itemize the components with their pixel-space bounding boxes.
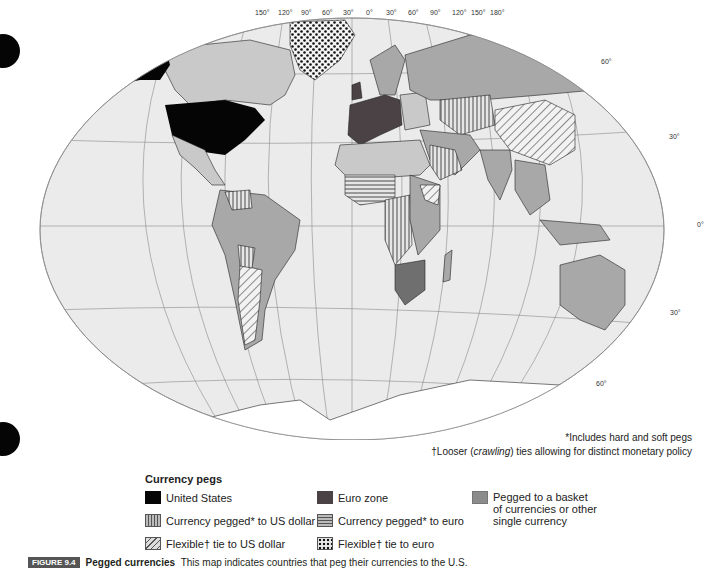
swatch-solid-dark-gray (317, 491, 333, 504)
swatch-vertical-stripes (145, 514, 161, 527)
swatch-dots (317, 537, 333, 550)
lat-label: 0° (697, 221, 704, 228)
footnotes: *Includes hard and soft pegs †Looser (cr… (431, 431, 692, 459)
legend-item-euro-peg: Currency pegged* to euro (317, 514, 464, 528)
swatch-solid-black (145, 491, 161, 504)
lon-label: 180° (490, 9, 504, 16)
swatch-diagonal-stripes (145, 537, 161, 550)
lon-label: 120° (452, 9, 466, 16)
lon-label: 150° (255, 9, 269, 16)
legend-item-euro-flex: Flexible† tie to euro (317, 537, 434, 551)
lon-label: 90° (301, 9, 312, 16)
lon-label: 30° (386, 9, 397, 16)
lat-label: 30° (669, 133, 680, 140)
swatch-horizontal-stripes (317, 514, 333, 527)
region-bolivia (238, 245, 255, 268)
caption-text: This map indicates countries that peg th… (181, 557, 468, 568)
figure-badge: FIGURE 9.4 (28, 557, 80, 568)
lon-label: 60° (408, 9, 419, 16)
legend-item-basket: Pegged to a basket of currencies or othe… (472, 491, 597, 527)
lat-label: 60° (601, 58, 612, 65)
lat-label: 30° (670, 309, 681, 316)
figure-caption: FIGURE 9.4Pegged currencies This map ind… (28, 557, 467, 568)
region-canada (160, 40, 295, 105)
region-uk (352, 82, 362, 100)
footnote-pegs: *Includes hard and soft pegs (431, 431, 692, 445)
lon-label: 60° (322, 9, 333, 16)
lon-label: 150° (471, 9, 485, 16)
caption-title: Pegged currencies (86, 557, 175, 568)
lat-label: 60° (596, 380, 607, 387)
lon-label: 30° (343, 9, 354, 16)
legend-item-us-flex: Flexible† tie to US dollar (145, 537, 285, 551)
lon-label: 0° (366, 9, 373, 16)
lon-label: 120° (278, 9, 292, 16)
region-north-africa (335, 140, 430, 180)
footnote-flexible: †Looser (crawling) ties allowing for dis… (431, 445, 692, 459)
lon-label: 90° (430, 9, 441, 16)
legend-title: Currency pegs (145, 473, 222, 485)
legend-item-euro-zone: Euro zone (317, 491, 388, 505)
legend-item-united-states: United States (145, 491, 232, 505)
world-map (0, 0, 704, 440)
swatch-solid-gray (472, 491, 488, 504)
legend-item-us-peg: Currency pegged* to US dollar (145, 514, 315, 528)
